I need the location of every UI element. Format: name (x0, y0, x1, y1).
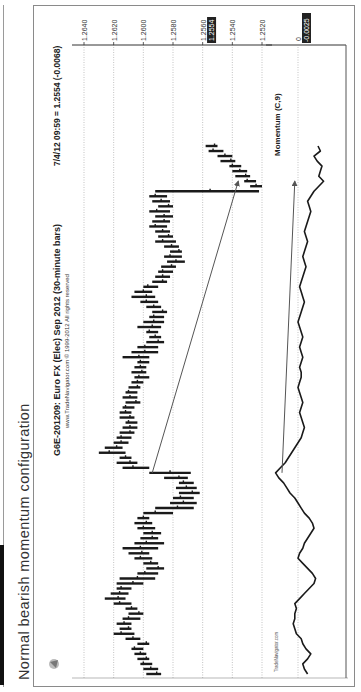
price-tick-label: 1.2520 (259, 19, 266, 41)
price-tick-label: 1.2620 (111, 19, 118, 41)
plot-area: 1.26401.26201.26001.25801.25601.25401.25… (72, 13, 348, 678)
caption-strip: Normal bearish momentum configuration (0, 0, 32, 692)
momentum-zero-label: 0 (295, 37, 302, 41)
caption-accent-bar (0, 545, 4, 685)
price-tick-label: 1.2600 (140, 19, 147, 41)
price-momentum-chart: G6E-201209: Euro FX (Elec) Sep 2012 (30-… (34, 6, 354, 686)
page: Normal bearish momentum configuration G6… (0, 0, 361, 692)
current-price-tag-text: 1.2554 (208, 19, 215, 41)
price-tick-label: 1.2640 (81, 19, 88, 41)
figure-caption: Normal bearish momentum configuration (16, 403, 32, 680)
chart-title: G6E-201209: Euro FX (Elec) Sep 2012 (30-… (52, 224, 62, 456)
tradenavigator-logo-icon (49, 659, 59, 669)
momentum-value-tag-text: -0.0025 (303, 18, 310, 42)
watermark: TradeNavigator.com (274, 631, 279, 672)
momentum-line (276, 146, 324, 674)
price-tick-label: 1.2580 (170, 19, 177, 41)
last-quote: 7/4/12 09:59 = 1.2554 (-0.0068) (52, 46, 62, 166)
price-tick-label: 1.2560 (200, 19, 207, 41)
chart-container: G6E-201209: Euro FX (Elec) Sep 2012 (30-… (33, 5, 355, 687)
price-tick-label: 1.2540 (229, 19, 236, 41)
chart-copyright: www.TradeNavigator.com © 1999-2012 All r… (64, 274, 70, 429)
momentum-label: Momentum (C,9) (273, 93, 282, 156)
momentum-trend-arrow (282, 181, 295, 473)
price-trend-arrow (152, 181, 238, 473)
